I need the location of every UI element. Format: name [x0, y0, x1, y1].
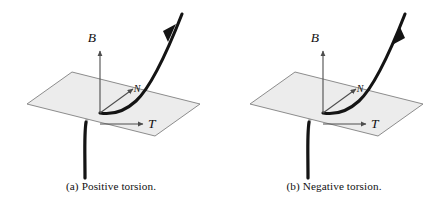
- torsion-figure: B⃗ N⃗ T⃗ (a)Positive torsion.: [0, 0, 445, 204]
- panel-positive-torsion: B⃗ N⃗ T⃗ (a)Positive torsion.: [0, 0, 222, 204]
- osculating-plane: [250, 72, 423, 136]
- diagram-positive-torsion: B⃗ N⃗ T⃗: [0, 0, 222, 180]
- caption-negative-torsion: (b)Negative torsion.: [223, 180, 445, 192]
- caption-text-a: Positive torsion.: [82, 180, 156, 192]
- caption-tag-b: (b): [286, 180, 299, 192]
- tangent-label: T⃗: [148, 116, 166, 131]
- normal-label: N⃗: [356, 83, 371, 94]
- binormal-label: B⃗: [311, 30, 330, 45]
- caption-tag-a: (a): [66, 180, 79, 192]
- normal-label: N⃗: [133, 83, 148, 94]
- caption-positive-torsion: (a)Positive torsion.: [0, 180, 222, 192]
- binormal-label: B⃗: [88, 30, 107, 45]
- panel-negative-torsion: B⃗ N⃗ T⃗ (b)Negative torsion.: [223, 0, 445, 204]
- osculating-plane: [27, 72, 200, 136]
- caption-text-b: Negative torsion.: [303, 180, 382, 192]
- diagram-negative-torsion: B⃗ N⃗ T⃗: [223, 0, 445, 180]
- tangent-label: T⃗: [371, 116, 389, 131]
